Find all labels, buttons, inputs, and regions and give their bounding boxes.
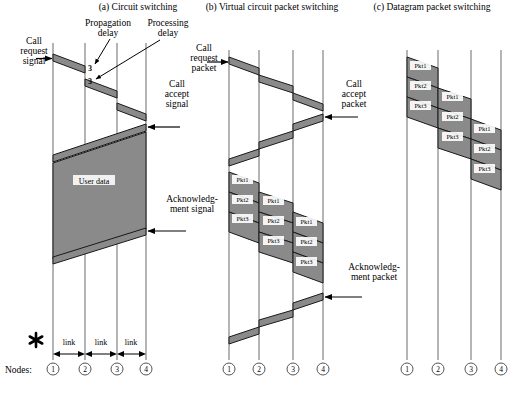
node-c-1: 1 [401, 363, 413, 375]
node-a-4: 4 [140, 363, 152, 375]
b-call-request-packet-label-line3: packet [192, 63, 217, 73]
acknowledgment-signal-label-line2: ment signal [170, 204, 214, 214]
c-hop2-pkt2-label: Pkt2 [446, 113, 458, 120]
call-accept-signal-label-line2: accept [165, 89, 190, 99]
b-ack-packet-label-line2: ment packet [351, 272, 398, 282]
c-hop2-pkt1-label: Pkt1 [446, 93, 458, 100]
acknowledgment-signal-label-line1: Acknowledg- [166, 194, 218, 204]
node-a-3-label: 3 [115, 365, 119, 374]
b-hop2-pkt2-label: Pkt2 [267, 217, 279, 224]
node-a-4-label: 4 [144, 365, 148, 374]
node-a-1: 1 [47, 363, 59, 375]
processing-delay-label-line2: delay [158, 28, 179, 38]
b-hop1-pkt2-label: Pkt2 [236, 196, 248, 203]
b-hop3-pkt2-label: Pkt2 [300, 238, 312, 245]
node-a-1-label: 1 [51, 365, 55, 374]
c-hop1-pkt2-label: Pkt2 [414, 82, 426, 89]
node-b-1: 1 [223, 363, 235, 375]
propagation-delay-tick: 3 [88, 64, 92, 73]
node-b-3-label: 3 [291, 365, 295, 374]
node-b-4-label: 4 [321, 365, 325, 374]
node-b-4: 4 [317, 363, 329, 375]
b-hop3-pkt3-label: Pkt3 [300, 258, 313, 265]
c-hop3-pkt1-label: Pkt1 [478, 125, 490, 132]
c-hop3-pkt2-label: Pkt2 [478, 145, 490, 152]
b-ack-packet-label-line1: Acknowledg- [348, 262, 400, 272]
node-a-2-label: 2 [83, 365, 87, 374]
processing-delay-tick: 3 [88, 77, 92, 86]
c-hop1-pkt3-label: Pkt3 [414, 102, 427, 109]
node-b-2: 2 [253, 363, 265, 375]
node-a-2: 2 [79, 363, 91, 375]
user-data-label: User data [79, 177, 110, 186]
b-hop2-pkt1-label: Pkt1 [267, 197, 279, 204]
call-accept-signal-label-line3: signal [166, 99, 189, 109]
panel-b-title: (b) Virtual circuit packet switching [206, 2, 339, 13]
propagation-delay-label-line1: Propagation [85, 18, 131, 28]
link-label-2: link [95, 338, 107, 347]
node-b-2-label: 2 [257, 365, 261, 374]
b-hop2-pkt3-label: Pkt3 [267, 237, 280, 244]
node-c-1-label: 1 [405, 365, 409, 374]
link-label-3: link [125, 338, 137, 347]
b-hop1-pkt1-label: Pkt1 [236, 176, 248, 183]
call-request-signal-label-line3: signal [23, 56, 46, 66]
c-hop2-pkt3-label: Pkt3 [446, 133, 459, 140]
node-a-3: 3 [111, 363, 123, 375]
call-request-signal-label-line1: Call [26, 36, 42, 46]
node-b-1-label: 1 [227, 365, 231, 374]
c-hop3-pkt3-label: Pkt3 [478, 165, 491, 172]
node-c-2: 2 [432, 363, 444, 375]
processing-delay-label-line1: Processing [147, 18, 188, 28]
b-call-request-packet-label-line1: Call [196, 43, 212, 53]
link-label-1: link [63, 338, 75, 347]
b-call-accept-packet-label-line1: Call [346, 79, 362, 89]
panel-a-title: (a) Circuit switching [99, 2, 178, 13]
b-hop3-pkt1-label: Pkt1 [300, 218, 312, 225]
node-c-2-label: 2 [436, 365, 440, 374]
panel-c-title: (c) Datagram packet switching [374, 2, 491, 13]
nodes-word-label: Nodes: [5, 365, 32, 375]
call-accept-signal-label-line1: Call [169, 79, 185, 89]
b-call-accept-packet-label-line3: packet [342, 99, 367, 109]
propagation-delay-label-line2: delay [98, 28, 119, 38]
node-c-3: 3 [465, 363, 477, 375]
node-c-3-label: 3 [469, 365, 473, 374]
node-b-3: 3 [287, 363, 299, 375]
b-call-accept-packet-label-line2: accept [342, 89, 367, 99]
node-c-4: 4 [495, 363, 507, 375]
b-hop1-pkt3-label: Pkt3 [236, 215, 249, 222]
figure-canvas: (a) Circuit switching (b) Virtual circui… [0, 0, 512, 394]
c-hop1-pkt1-label: Pkt1 [414, 62, 426, 69]
call-request-signal-label-line2: request [20, 46, 48, 56]
node-c-4-label: 4 [499, 365, 503, 374]
